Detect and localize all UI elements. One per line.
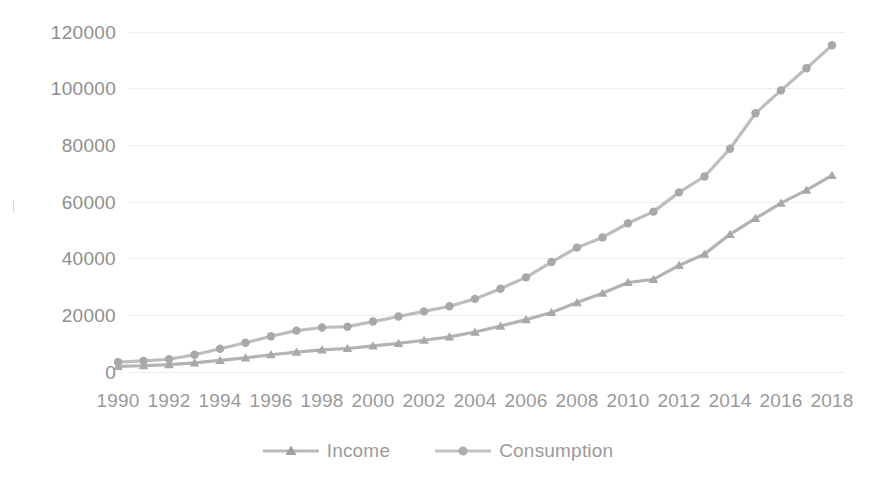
data-point-marker: [343, 322, 351, 330]
circle-marker-icon: [434, 443, 492, 459]
data-point-marker: [522, 273, 530, 281]
x-axis-label-1992: 1992: [142, 390, 196, 412]
data-point-marker: [700, 172, 708, 180]
x-axis-label-2004: 2004: [448, 390, 502, 412]
x-axis-label-2018: 2018: [805, 390, 859, 412]
legend-label-consumption: Consumption: [499, 440, 613, 462]
series-consumption: [114, 41, 836, 366]
x-axis-label-2002: 2002: [397, 390, 451, 412]
data-point-marker: [777, 86, 785, 94]
legend-item-consumption[interactable]: Consumption: [434, 440, 613, 462]
triangle-marker-icon: [262, 443, 320, 459]
data-point-marker: [726, 145, 734, 153]
x-axis-label-2000: 2000: [346, 390, 400, 412]
x-axis-label-2010: 2010: [601, 390, 655, 412]
data-point-marker: [318, 323, 326, 331]
x-axis-label-1990: 1990: [91, 390, 145, 412]
legend-label-income: Income: [327, 440, 391, 462]
data-point-marker: [445, 302, 453, 310]
series-line: [118, 45, 832, 362]
data-point-marker: [649, 207, 657, 215]
data-point-marker: [471, 295, 479, 303]
x-axis-label-2016: 2016: [754, 390, 808, 412]
data-point-marker: [624, 219, 632, 227]
data-point-marker: [292, 326, 300, 334]
data-point-marker: [573, 243, 581, 251]
series-income: [113, 171, 837, 370]
line-chart: 120000 100000 80000 60000 40000 20000 0 …: [0, 0, 875, 496]
data-point-marker: [369, 317, 377, 325]
data-point-marker: [114, 358, 122, 366]
data-point-marker: [420, 307, 428, 315]
series-line: [118, 175, 832, 366]
plot-area: [0, 0, 875, 496]
data-point-marker: [190, 351, 198, 359]
data-point-marker: [675, 188, 683, 196]
data-point-marker: [496, 285, 504, 293]
data-point-marker: [598, 233, 606, 241]
data-point-marker: [547, 258, 555, 266]
data-point-marker: [751, 109, 759, 117]
data-point-marker: [139, 357, 147, 365]
data-point-marker: [827, 171, 837, 179]
chart-legend: Income Consumption: [0, 440, 875, 462]
legend-item-income[interactable]: Income: [262, 440, 391, 462]
x-axis-label-1998: 1998: [295, 390, 349, 412]
x-axis-label-2008: 2008: [550, 390, 604, 412]
data-point-marker: [165, 355, 173, 363]
x-axis-label-2006: 2006: [499, 390, 553, 412]
x-axis-label-1994: 1994: [193, 390, 247, 412]
x-axis-label-2014: 2014: [703, 390, 757, 412]
x-axis-label-2012: 2012: [652, 390, 706, 412]
data-point-marker: [828, 41, 836, 49]
data-point-marker: [216, 345, 224, 353]
data-point-marker: [394, 312, 402, 320]
data-point-marker: [241, 339, 249, 347]
data-point-marker: [267, 332, 275, 340]
x-axis-label-1996: 1996: [244, 390, 298, 412]
data-point-marker: [802, 64, 810, 72]
